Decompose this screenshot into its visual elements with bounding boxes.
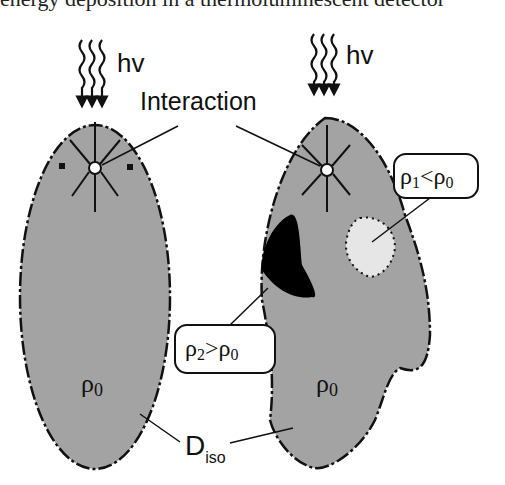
- svg-text:ρ2>ρ0: ρ2>ρ0: [185, 335, 239, 363]
- interaction-label: Interaction: [140, 87, 257, 115]
- rho2-callout: ρ2>ρ0: [175, 288, 275, 373]
- photon-label-left: hv: [117, 48, 144, 78]
- dose-diagram: hv hv Interaction ρ0 ρ0 ρ1<ρ0: [0, 0, 505, 485]
- svg-text:Diso: Diso: [185, 430, 226, 466]
- svg-text:ρ1<ρ0: ρ1<ρ0: [400, 163, 454, 191]
- photon-arrows-left: [80, 40, 105, 102]
- photon-label-right: hv: [346, 40, 373, 70]
- photon-arrows-right: [312, 34, 337, 90]
